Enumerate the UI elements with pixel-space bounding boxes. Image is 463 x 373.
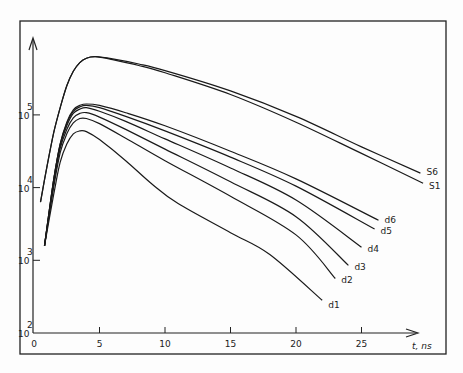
curve-d5 bbox=[45, 105, 375, 245]
series-label-d6: d6 bbox=[385, 215, 397, 225]
series-label-d5: d5 bbox=[381, 226, 392, 236]
series-label-d2: d2 bbox=[341, 275, 352, 285]
series-label-d1: d1 bbox=[328, 300, 339, 310]
curve-s1 bbox=[41, 57, 424, 202]
chart-figure: 0510152025t, ns102103104105S6S1d6d5d4d3d… bbox=[0, 0, 463, 373]
x-axis-label: t, ns bbox=[412, 341, 432, 351]
x-tick-label: 0 bbox=[31, 339, 37, 349]
x-tick-label: 10 bbox=[159, 339, 171, 349]
x-tick-label: 20 bbox=[290, 339, 302, 349]
series-label-d3: d3 bbox=[354, 262, 365, 272]
y-tick-label-exp: 5 bbox=[27, 102, 33, 112]
series-label-s1: S1 bbox=[429, 181, 440, 191]
x-tick-label: 25 bbox=[356, 339, 367, 349]
line-chart: 0510152025t, ns102103104105S6S1d6d5d4d3d… bbox=[0, 0, 463, 373]
curve-d4 bbox=[45, 108, 362, 248]
curve-d1 bbox=[45, 131, 323, 301]
y-tick-label-base: 10 bbox=[18, 111, 30, 121]
x-tick-label: 15 bbox=[225, 339, 236, 349]
x-tick-label: 5 bbox=[97, 339, 103, 349]
series-label-s6: S6 bbox=[426, 167, 438, 177]
curve-d2 bbox=[45, 118, 336, 279]
y-tick-label-exp: 4 bbox=[27, 175, 33, 185]
y-tick-label-exp: 2 bbox=[27, 320, 33, 330]
series-label-d4: d4 bbox=[368, 244, 380, 254]
y-tick-label-exp: 3 bbox=[27, 247, 33, 257]
figure-frame bbox=[20, 21, 446, 354]
y-tick-label-base: 10 bbox=[18, 329, 30, 339]
y-tick-label-base: 10 bbox=[18, 184, 30, 194]
curve-d6 bbox=[45, 104, 379, 246]
curve-s6 bbox=[41, 57, 421, 202]
y-tick-label-base: 10 bbox=[18, 256, 30, 266]
